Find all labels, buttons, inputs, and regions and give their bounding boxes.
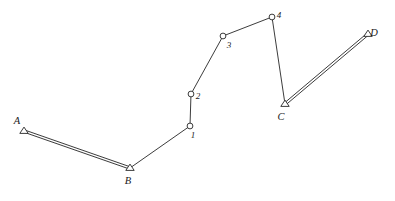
station-label-3: 3 <box>226 40 232 50</box>
station-label-4: 4 <box>277 10 282 20</box>
station-marker-2 <box>188 91 194 97</box>
control-point-label-a: A <box>13 115 21 126</box>
station-marker-1 <box>187 123 193 129</box>
control-point-label-c: C <box>277 111 285 122</box>
control-point-label-d: D <box>369 27 378 38</box>
traverse-diagram: ABCD1234 <box>0 0 395 201</box>
station-marker-3 <box>220 33 226 39</box>
station-label-2: 2 <box>196 91 201 101</box>
station-label-1: 1 <box>191 130 196 140</box>
control-point-label-b: B <box>125 175 132 186</box>
station-marker-4 <box>269 14 275 20</box>
